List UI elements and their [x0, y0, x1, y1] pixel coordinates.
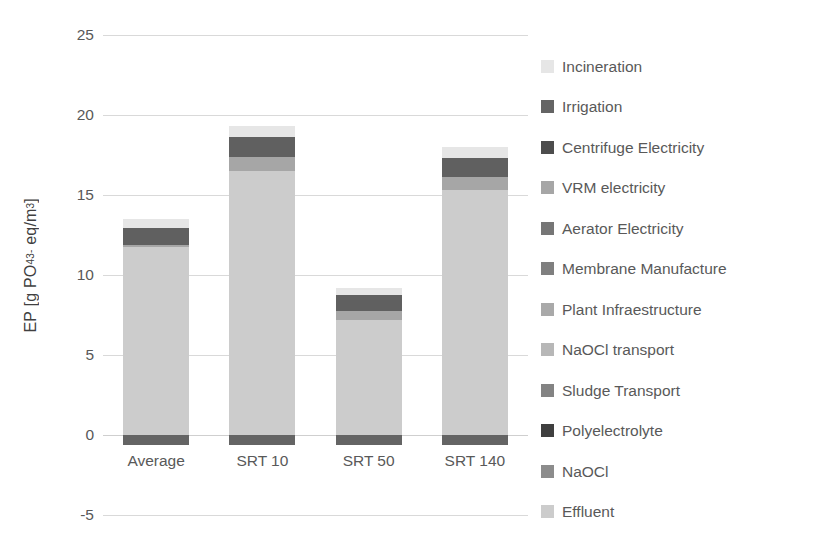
legend-item[interactable]: Irrigation [541, 87, 811, 128]
bar-group[interactable]: Average [123, 35, 189, 515]
legend-item-label: Centrifuge Electricity [562, 140, 704, 156]
bar-segment-negative[interactable] [229, 435, 295, 445]
legend-item[interactable]: NaOCl transport [541, 330, 811, 371]
legend-item-label: Plant Infraestructure [562, 302, 702, 318]
legend-swatch-icon [541, 303, 554, 316]
legend-item-label: Polyelectrolyte [562, 423, 663, 439]
stacked-bar[interactable] [442, 147, 508, 435]
legend-swatch-icon [541, 60, 554, 73]
legend-item-label: Irrigation [562, 99, 622, 115]
y-axis-title-text: EP [g PO43- eq/m3] [22, 198, 40, 333]
bar-segment[interactable] [442, 177, 508, 191]
bar-segment[interactable] [442, 158, 508, 176]
bar-segment[interactable] [336, 295, 402, 311]
x-axis-category-label: Average [127, 453, 184, 469]
bar-segment[interactable] [336, 320, 402, 435]
bar-segment-negative[interactable] [123, 435, 189, 445]
y-tick-label-20: 20 [77, 107, 94, 123]
legend-swatch-icon [541, 100, 554, 113]
x-axis-category-label: SRT 10 [236, 453, 288, 469]
legend-item-label: VRM electricity [562, 180, 665, 196]
legend-item-label: Membrane Manufacture [562, 261, 727, 277]
legend-item-label: Effluent [562, 504, 614, 520]
bar-segment[interactable] [229, 137, 295, 156]
gridline--5: -5 [103, 515, 528, 516]
y-tick-label-0: 0 [85, 427, 94, 443]
chart-container: EP [g PO43- eq/m3] 2520151050-5 AverageS… [0, 0, 817, 543]
legend-item[interactable]: Aerator Electricity [541, 208, 811, 249]
legend-item[interactable]: Plant Infraestructure [541, 289, 811, 330]
bar-segment-negative[interactable] [336, 435, 402, 445]
y-axis-title: EP [g PO43- eq/m3] [16, 150, 46, 380]
legend-item-label: Incineration [562, 59, 642, 75]
legend-swatch-icon [541, 343, 554, 356]
legend-item[interactable]: Sludge Transport [541, 370, 811, 411]
bar-segment[interactable] [123, 219, 189, 228]
bar-segment[interactable] [229, 171, 295, 435]
bar-segment[interactable] [229, 157, 295, 171]
legend-swatch-icon [541, 222, 554, 235]
bar-segment[interactable] [123, 247, 189, 435]
stacked-bar[interactable] [123, 219, 189, 435]
legend-swatch-icon [541, 141, 554, 154]
plot-area: 2520151050-5 AverageSRT 10SRT 50SRT 140 [103, 35, 528, 515]
chart-legend: IncinerationIrrigationCentrifuge Electri… [541, 46, 811, 532]
y-tick-label-15: 15 [77, 187, 94, 203]
legend-swatch-icon [541, 505, 554, 518]
bar-segment[interactable] [442, 190, 508, 435]
y-tick-label-25: 25 [77, 27, 94, 43]
legend-item[interactable]: Effluent [541, 492, 811, 533]
stacked-bar[interactable] [229, 126, 295, 435]
legend-swatch-icon [541, 384, 554, 397]
x-axis-category-label: SRT 50 [343, 453, 395, 469]
y-tick-label--5: -5 [80, 507, 94, 523]
bar-segment[interactable] [123, 228, 189, 246]
legend-swatch-icon [541, 262, 554, 275]
legend-item[interactable]: NaOCl [541, 451, 811, 492]
bar-group[interactable]: SRT 140 [442, 35, 508, 515]
bar-segment[interactable] [229, 126, 295, 137]
legend-item-label: Aerator Electricity [562, 221, 683, 237]
x-axis-category-label: SRT 140 [445, 453, 506, 469]
legend-swatch-icon [541, 424, 554, 437]
legend-item[interactable]: Centrifuge Electricity [541, 127, 811, 168]
legend-item[interactable]: Polyelectrolyte [541, 411, 811, 452]
legend-item-label: NaOCl transport [562, 342, 674, 358]
bar-group[interactable]: SRT 50 [336, 35, 402, 515]
bar-segment[interactable] [442, 147, 508, 158]
y-tick-label-5: 5 [85, 347, 94, 363]
bar-segment[interactable] [336, 311, 402, 320]
legend-swatch-icon [541, 181, 554, 194]
bar-segment[interactable] [336, 288, 402, 295]
legend-item[interactable]: Incineration [541, 46, 811, 87]
bar-segment-negative[interactable] [442, 435, 508, 445]
bar-group[interactable]: SRT 10 [229, 35, 295, 515]
legend-item[interactable]: Membrane Manufacture [541, 249, 811, 290]
legend-item-label: Sludge Transport [562, 383, 680, 399]
y-tick-label-10: 10 [77, 267, 94, 283]
legend-swatch-icon [541, 465, 554, 478]
legend-item-label: NaOCl [562, 464, 609, 480]
legend-item[interactable]: VRM electricity [541, 168, 811, 209]
stacked-bar[interactable] [336, 288, 402, 435]
